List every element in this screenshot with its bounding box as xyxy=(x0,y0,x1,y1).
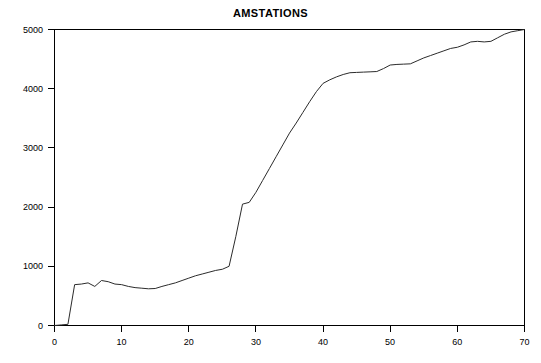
chart-plot-area: 0 1000 2000 3000 4000 5000 0 10 20 30 40… xyxy=(0,0,541,363)
y-tick-label-1000: 1000 xyxy=(23,261,43,271)
x-tick-label-70: 70 xyxy=(519,337,529,347)
y-tick-label-0: 0 xyxy=(38,321,43,331)
x-tick-label-0: 0 xyxy=(52,337,57,347)
x-tick-label-10: 10 xyxy=(117,337,127,347)
x-tick-label-40: 40 xyxy=(318,337,328,347)
y-tick-label-2000: 2000 xyxy=(23,202,43,212)
data-series-line xyxy=(55,30,525,326)
chart-container: AMSTATIONS 0 1000 2000 3000 4000 5000 xyxy=(0,0,541,363)
x-tick-label-20: 20 xyxy=(184,337,194,347)
y-tick-label-5000: 5000 xyxy=(23,25,43,35)
y-tick-label-3000: 3000 xyxy=(23,143,43,153)
x-axis-ticks xyxy=(55,326,525,333)
x-tick-label-50: 50 xyxy=(385,337,395,347)
y-axis-ticks xyxy=(48,30,55,326)
y-axis-tick-labels: 0 1000 2000 3000 4000 5000 xyxy=(23,25,43,331)
x-axis-tick-labels: 0 10 20 30 40 50 60 70 xyxy=(52,337,530,347)
x-tick-label-30: 30 xyxy=(251,337,261,347)
x-tick-label-60: 60 xyxy=(452,337,462,347)
y-tick-label-4000: 4000 xyxy=(23,84,43,94)
